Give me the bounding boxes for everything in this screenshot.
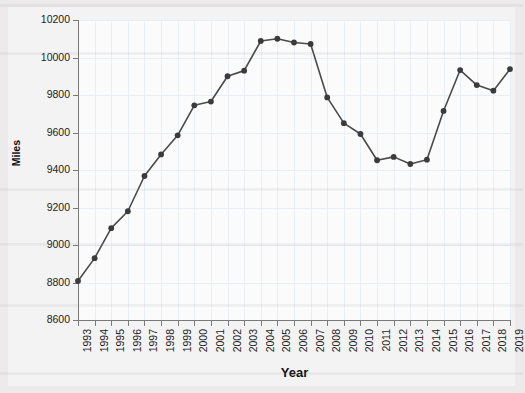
gridline-vertical [194,20,195,320]
gridline-vertical [311,20,312,320]
x-tick-mark [327,321,328,326]
x-tick-mark [510,321,511,326]
x-tick-mark [228,321,229,326]
gridline-vertical [111,20,112,320]
scan-band [0,304,523,307]
gridline-vertical [178,20,179,320]
x-tick-mark [178,321,179,326]
y-tick-mark [73,170,78,171]
gridline-vertical [128,20,129,320]
gridline-vertical [244,20,245,320]
y-tick-mark [73,58,78,59]
x-tick-label: 2004 [265,329,276,352]
x-tick-label: 2019 [514,329,525,352]
x-tick-mark [144,321,145,326]
scan-band [0,243,523,246]
gridline-vertical [144,20,145,320]
gridline-vertical [277,20,278,320]
x-tick-label: 2007 [315,329,326,352]
x-tick-label: 1994 [99,329,110,352]
gridline-vertical [377,20,378,320]
gridline-vertical [410,20,411,320]
x-tick-label: 2001 [215,329,226,352]
x-tick-mark [444,321,445,326]
x-tick-label: 1996 [132,329,143,352]
gridline-vertical [95,20,96,320]
y-axis-line [78,20,79,321]
gridline-vertical [394,20,395,320]
x-tick-mark [161,321,162,326]
gridline-vertical [161,20,162,320]
y-tick-mark [73,208,78,209]
gridline-vertical [493,20,494,320]
gridline-vertical [460,20,461,320]
y-tick-label: 9200 [47,202,70,213]
gridline-vertical [211,20,212,320]
x-tick-label: 2015 [448,329,459,352]
x-tick-mark [460,321,461,326]
x-tick-mark [128,321,129,326]
x-tick-label: 2018 [497,329,508,352]
x-tick-label: 2003 [248,329,259,352]
gridline-vertical [427,20,428,320]
scan-band [0,188,523,191]
x-tick-mark [477,321,478,326]
x-tick-mark [78,321,79,326]
x-tick-mark [493,321,494,326]
x-tick-label: 2012 [398,329,409,352]
scan-band [0,4,523,7]
gridline-vertical [327,20,328,320]
gridline-vertical [510,20,511,320]
x-tick-label: 1997 [148,329,159,352]
x-tick-label: 1993 [82,329,93,352]
y-tick-label: 8800 [47,277,70,288]
gridline-vertical [444,20,445,320]
y-tick-mark [73,133,78,134]
x-tick-mark [377,321,378,326]
y-tick-label: 9600 [47,127,70,138]
gridline-vertical [344,20,345,320]
x-tick-label: 2013 [414,329,425,352]
x-tick-mark [211,321,212,326]
x-tick-mark [394,321,395,326]
x-tick-mark [360,321,361,326]
y-tick-mark [73,283,78,284]
gridline-vertical [294,20,295,320]
y-tick-mark [73,20,78,21]
plot-area [78,20,510,320]
x-tick-label: 1998 [165,329,176,352]
x-tick-mark [311,321,312,326]
x-tick-label: 2009 [348,329,359,352]
x-tick-label: 2017 [481,329,492,352]
x-tick-label: 2008 [331,329,342,352]
x-tick-mark [111,321,112,326]
x-tick-label: 1999 [182,329,193,352]
gridline-vertical [228,20,229,320]
x-tick-label: 2000 [198,329,209,352]
x-tick-label: 1995 [115,329,126,352]
x-tick-mark [277,321,278,326]
y-tick-mark [73,95,78,96]
x-tick-label: 2014 [431,329,442,352]
x-tick-label: 2002 [232,329,243,352]
x-tick-mark [344,321,345,326]
y-tick-label: 9400 [47,164,70,175]
gridline-vertical [360,20,361,320]
gridline-vertical [477,20,478,320]
y-tick-label: 8600 [47,314,70,325]
x-tick-label: 2011 [381,329,392,352]
x-tick-mark [194,321,195,326]
x-tick-label: 2010 [364,329,375,352]
x-tick-label: 2005 [281,329,292,352]
x-tick-label: 2016 [464,329,475,352]
x-tick-mark [244,321,245,326]
x-tick-mark [294,321,295,326]
y-axis-title: Miles [10,140,22,166]
scan-band [0,372,523,375]
y-tick-label: 10200 [41,14,70,25]
x-tick-mark [410,321,411,326]
x-tick-mark [95,321,96,326]
gridline-vertical [261,20,262,320]
x-tick-label: 2006 [298,329,309,352]
